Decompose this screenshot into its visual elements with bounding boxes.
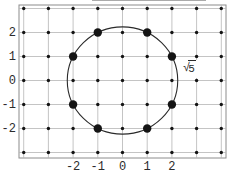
lattice-dot: [96, 7, 99, 10]
lattice-dot: [121, 127, 124, 130]
lattice-dot: [170, 31, 173, 34]
lattice-dot: [121, 7, 124, 10]
circle-lattice-dot: [69, 100, 77, 108]
circle-lattice-dot: [168, 52, 176, 60]
lattice-dot: [96, 151, 99, 154]
lattice-dot: [220, 7, 223, 10]
x-tick-label: 2: [168, 160, 175, 174]
lattice-dot: [195, 7, 198, 10]
lattice-dot: [195, 127, 198, 130]
lattice-dot: [195, 79, 198, 82]
lattice-dot: [96, 55, 99, 58]
lattice-dot: [195, 31, 198, 34]
circle-lattice-dot: [69, 52, 77, 60]
circle-lattice-dot: [94, 28, 102, 36]
lattice-dot: [146, 55, 149, 58]
x-tick-label: 0: [119, 160, 126, 174]
y-tick-label: 1: [9, 50, 16, 64]
lattice-dot: [22, 127, 25, 130]
lattice-dot: [71, 7, 74, 10]
screenshot-crop-artifact: [92, 0, 206, 1]
lattice-dot: [220, 151, 223, 154]
circle-lattice-dot: [143, 28, 151, 36]
lattice-dot: [121, 79, 124, 82]
plot-canvas: -2-1012210-1-2: [0, 0, 230, 175]
lattice-dot: [47, 31, 50, 34]
x-tick-label: 1: [144, 160, 151, 174]
y-tick-label: 0: [9, 74, 16, 88]
lattice-dot: [22, 103, 25, 106]
lattice-dot: [220, 79, 223, 82]
lattice-dot: [170, 127, 173, 130]
lattice-dot: [220, 55, 223, 58]
radicand: 5: [188, 60, 196, 77]
lattice-dot: [47, 127, 50, 130]
lattice-dot: [22, 7, 25, 10]
x-tick-label: -2: [66, 160, 80, 174]
lattice-dot: [71, 127, 74, 130]
y-tick-label: 2: [9, 26, 16, 40]
lattice-dot: [47, 79, 50, 82]
lattice-dot: [220, 127, 223, 130]
lattice-dot: [170, 79, 173, 82]
lattice-dot: [195, 55, 198, 58]
lattice-dot: [220, 103, 223, 106]
lattice-dot: [22, 151, 25, 154]
y-tick-label: -2: [2, 122, 16, 136]
lattice-dot: [22, 79, 25, 82]
lattice-dot: [146, 7, 149, 10]
y-tick-label: -1: [2, 98, 16, 112]
lattice-dot: [22, 31, 25, 34]
lattice-dot: [47, 151, 50, 154]
lattice-dot: [121, 55, 124, 58]
circle-lattice-dot: [94, 124, 102, 132]
lattice-dot: [71, 79, 74, 82]
lattice-dot: [146, 79, 149, 82]
lattice-dot: [96, 79, 99, 82]
lattice-dot: [47, 103, 50, 106]
x-tick-label: -1: [91, 160, 105, 174]
lattice-dot: [170, 7, 173, 10]
lattice-dot: [195, 151, 198, 154]
lattice-dot: [71, 31, 74, 34]
lattice-circle-figure: -2-1012210-1-2 √5: [0, 0, 230, 175]
lattice-dot: [47, 7, 50, 10]
lattice-dot: [121, 151, 124, 154]
lattice-dot: [170, 151, 173, 154]
lattice-dot: [146, 103, 149, 106]
radius-label: √5: [179, 60, 200, 78]
circle-lattice-dot: [143, 124, 151, 132]
lattice-dot: [220, 31, 223, 34]
lattice-dot: [195, 103, 198, 106]
lattice-dot: [146, 151, 149, 154]
lattice-dot: [121, 103, 124, 106]
lattice-dot: [22, 55, 25, 58]
lattice-dot: [71, 151, 74, 154]
circle-lattice-dot: [168, 100, 176, 108]
lattice-dot: [47, 55, 50, 58]
lattice-dot: [96, 103, 99, 106]
lattice-dot: [121, 31, 124, 34]
